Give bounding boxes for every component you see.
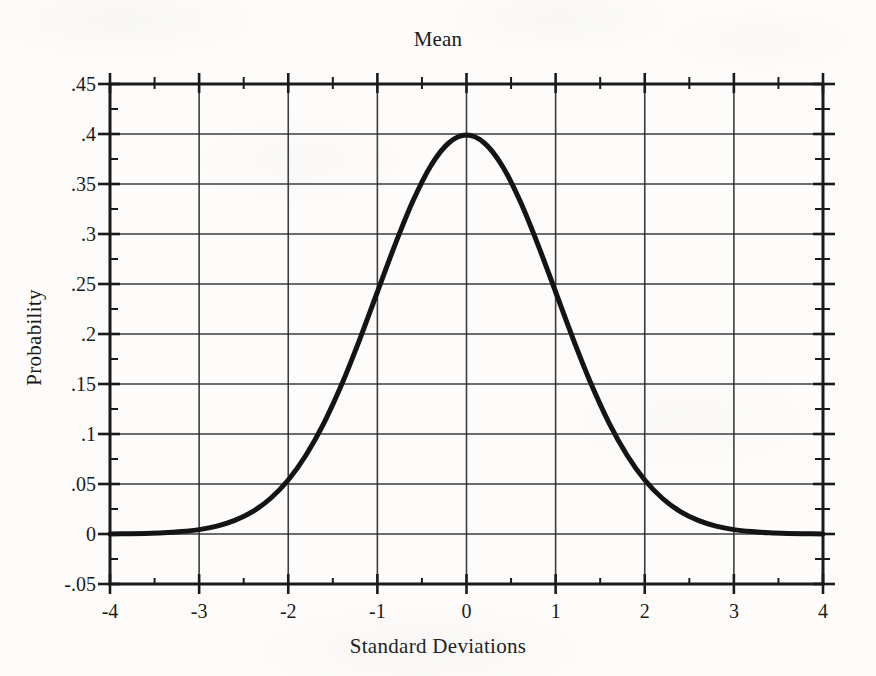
chart-plot-area [0, 0, 876, 676]
y-tick-label: .45 [71, 73, 96, 96]
x-axis-label: Standard Deviations [0, 634, 876, 659]
chart-figure: Mean Probability Standard Deviations -.0… [0, 0, 876, 676]
y-axis-label: Probability [22, 238, 47, 438]
y-tick-label: .2 [81, 323, 96, 346]
gridlines [110, 84, 823, 584]
x-tick-label: 2 [640, 600, 650, 623]
x-tick-label: 4 [818, 600, 828, 623]
x-tick-label: 1 [551, 600, 561, 623]
y-tick-label: .05 [71, 473, 96, 496]
y-tick-label: .15 [71, 373, 96, 396]
y-tick-label: .4 [81, 123, 96, 146]
x-tick-label: -3 [191, 600, 208, 623]
y-tick-label: .25 [71, 273, 96, 296]
x-tick-label: 0 [462, 600, 472, 623]
chart-title: Mean [0, 27, 876, 52]
y-tick-label: -.05 [64, 573, 96, 596]
x-tick-label: 3 [729, 600, 739, 623]
y-tick-label: .3 [81, 223, 96, 246]
y-tick-label: .35 [71, 173, 96, 196]
minor-ticks [110, 77, 830, 584]
x-tick-label: -2 [280, 600, 297, 623]
y-tick-label: .1 [81, 423, 96, 446]
x-tick-label: -1 [369, 600, 386, 623]
y-tick-label: 0 [86, 523, 96, 546]
x-tick-label: -4 [102, 600, 119, 623]
